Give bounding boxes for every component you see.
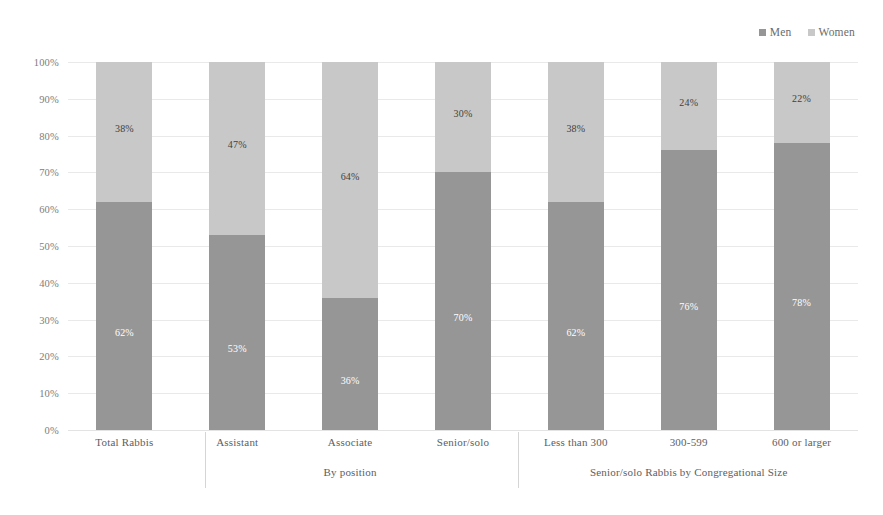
y-axis-tick-label: 20%: [39, 351, 59, 362]
bar-label-women: 30%: [454, 109, 473, 119]
legend-label-women: Women: [819, 26, 855, 38]
y-axis-tick-label: 40%: [39, 277, 59, 288]
y-axis-tick-label: 0%: [45, 425, 59, 436]
bar-label-women: 24%: [679, 98, 698, 108]
bar-less-than-300[interactable]: 38%62%: [548, 62, 604, 430]
category-label: Less than 300: [544, 436, 608, 448]
bar-label-men: 53%: [228, 344, 247, 354]
bar-total-rabbis[interactable]: 38%62%: [96, 62, 152, 430]
category-label: Senior/solo: [437, 436, 489, 448]
bar-segment-men[interactable]: 62%: [96, 202, 152, 430]
group-label-2: Senior/solo Rabbis by Congregational Siz…: [590, 466, 788, 478]
bar-segment-women[interactable]: 24%: [661, 62, 717, 150]
group-label-1: By position: [324, 466, 377, 478]
bar-segment-women[interactable]: 38%: [548, 62, 604, 202]
legend-label-men: Men: [770, 26, 792, 38]
group-separator-1: [205, 432, 206, 488]
category-axis: Total RabbisAssistantAssociateSenior/sol…: [68, 436, 858, 458]
bar-segment-women[interactable]: 64%: [322, 62, 378, 298]
category-label: Assistant: [216, 436, 258, 448]
legend-swatch-men: [759, 29, 766, 36]
bar-300-599[interactable]: 24%76%: [661, 62, 717, 430]
bar-segment-men[interactable]: 36%: [322, 298, 378, 430]
bar-label-men: 78%: [792, 298, 811, 308]
legend-entry-men[interactable]: Men: [759, 26, 792, 38]
bar-600-or-larger[interactable]: 22%78%: [774, 62, 830, 430]
bar-segment-women[interactable]: 38%: [96, 62, 152, 202]
bar-label-women: 38%: [566, 124, 585, 134]
bar-label-men: 62%: [115, 328, 134, 338]
y-axis-tick-label: 30%: [39, 314, 59, 325]
legend-entry-women[interactable]: Women: [808, 26, 855, 38]
bar-label-women: 38%: [115, 124, 134, 134]
group-separator-2: [518, 432, 519, 488]
bar-segment-women[interactable]: 22%: [774, 62, 830, 143]
bar-segment-men[interactable]: 78%: [774, 143, 830, 430]
bar-label-women: 64%: [341, 172, 360, 182]
bar-associate[interactable]: 64%36%: [322, 62, 378, 430]
plot-area: 0%10%20%30%40%50%60%70%80%90%100% 38%62%…: [68, 62, 858, 430]
y-axis-tick-label: 90%: [39, 93, 59, 104]
category-label: 300-599: [670, 436, 708, 448]
y-axis-tick-label: 80%: [39, 130, 59, 141]
bar-senior-solo[interactable]: 30%70%: [435, 62, 491, 430]
category-label: 600 or larger: [772, 436, 831, 448]
chart-legend: Men Women: [759, 26, 855, 38]
bar-segment-men[interactable]: 53%: [209, 235, 265, 430]
y-axis-tick-label: 50%: [39, 241, 59, 252]
bar-label-women: 22%: [792, 94, 811, 104]
bar-segment-men[interactable]: 76%: [661, 150, 717, 430]
bar-segment-men[interactable]: 70%: [435, 172, 491, 430]
bar-label-men: 70%: [454, 313, 473, 323]
legend-swatch-women: [808, 29, 815, 36]
group-axis: By positionSenior/solo Rabbis by Congreg…: [68, 466, 858, 488]
chart-root: Men Women 0%10%20%30%40%50%60%70%80%90%1…: [0, 0, 883, 515]
bar-label-women: 47%: [228, 140, 247, 150]
category-label: Total Rabbis: [95, 436, 153, 448]
bar-label-men: 36%: [341, 376, 360, 386]
bar-assistant[interactable]: 47%53%: [209, 62, 265, 430]
bar-segment-women[interactable]: 30%: [435, 62, 491, 172]
bar-segment-men[interactable]: 62%: [548, 202, 604, 430]
bars-layer: 38%62%47%53%64%36%30%70%38%62%24%76%22%7…: [68, 62, 858, 430]
y-axis-tick-label: 60%: [39, 204, 59, 215]
y-axis-tick-label: 10%: [39, 388, 59, 399]
bar-segment-women[interactable]: 47%: [209, 62, 265, 235]
bar-label-men: 76%: [679, 302, 698, 312]
gridline: 0%: [68, 430, 858, 431]
category-label: Associate: [328, 436, 373, 448]
bar-label-men: 62%: [566, 328, 585, 338]
y-axis-tick-label: 100%: [34, 57, 59, 68]
y-axis-tick-label: 70%: [39, 167, 59, 178]
